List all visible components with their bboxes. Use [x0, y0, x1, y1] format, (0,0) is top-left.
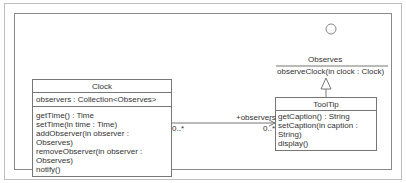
- class-clock[interactable]: Clock observers : Collection<Observes> g…: [32, 79, 172, 177]
- operations-section: getCaption() : String setCaption(in capt…: [276, 111, 376, 150]
- class-tooltip[interactable]: ToolTip getCaption() : String setCaption…: [275, 97, 377, 151]
- target-multiplicity: 0..*: [263, 124, 275, 133]
- realization-arrow-icon: [321, 78, 331, 89]
- interface-operation: observeClock(in clock : Clock): [277, 67, 384, 76]
- operation: notify(): [36, 165, 168, 174]
- operation: getCaption() : String: [278, 112, 374, 121]
- operation: addObserver(in observer : Observes): [36, 129, 168, 147]
- operation: removeObserver(in observer : Observes): [36, 147, 168, 165]
- operation: getTime() : Time: [36, 111, 168, 120]
- attributes-section: observers : Collection<Observes>: [33, 93, 171, 107]
- class-name: ToolTip: [276, 98, 376, 111]
- class-name: Clock: [33, 80, 171, 93]
- interface-name: Observes: [308, 55, 342, 64]
- operation: setTime(in time : Time): [36, 120, 168, 129]
- operations-section: getTime() : Time setTime(in time : Time)…: [33, 107, 171, 176]
- attribute: observers : Collection<Observes>: [36, 95, 168, 104]
- operation: setCaption(in caption : String): [278, 121, 374, 139]
- operation: display(): [278, 139, 374, 148]
- interface-lollipop-icon: [326, 24, 336, 34]
- source-multiplicity: 0..*: [172, 124, 184, 133]
- association-role: +observers: [236, 113, 276, 122]
